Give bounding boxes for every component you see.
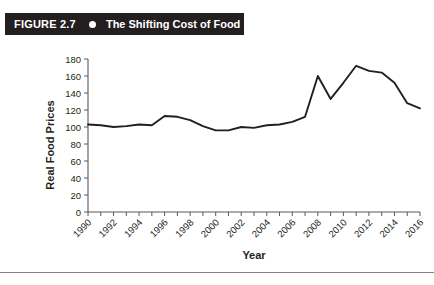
y-tick-label: 80 <box>70 139 81 150</box>
chart-canvas: Real Food Prices 02040608010012014016018… <box>0 40 434 265</box>
x-axis-ticks: 1990199219941996199820002002200420062008… <box>71 212 426 239</box>
y-tick-label: 60 <box>70 156 81 167</box>
x-tick-label: 2002 <box>224 217 247 240</box>
figure-number: FIGURE 2.7 <box>14 18 76 30</box>
figure-title: The Shifting Cost of Food <box>106 18 240 30</box>
figure-title-banner: FIGURE 2.7 The Shifting Cost of Food <box>5 13 244 35</box>
x-tick-label: 2012 <box>352 217 375 240</box>
x-axis-title: Year <box>242 249 266 261</box>
y-tick-label: 40 <box>70 173 81 184</box>
x-tick-label: 2004 <box>249 217 272 240</box>
x-tick-label: 2008 <box>301 217 324 240</box>
x-tick-label: 1998 <box>173 217 196 240</box>
y-tick-label: 140 <box>65 88 81 99</box>
y-axis-title: Real Food Prices <box>44 100 56 189</box>
data-series-line <box>88 66 420 131</box>
bullet-dot-icon <box>89 21 96 28</box>
x-tick-label: 2000 <box>198 217 221 240</box>
y-tick-label: 160 <box>65 71 81 82</box>
x-tick-label: 2014 <box>377 217 400 240</box>
bottom-divider <box>0 272 434 273</box>
y-tick-label: 0 <box>76 207 81 218</box>
y-tick-label: 180 <box>65 54 81 65</box>
x-tick-label: 1990 <box>71 217 94 240</box>
x-tick-label: 2006 <box>275 217 298 240</box>
x-tick-label: 1996 <box>147 217 170 240</box>
y-axis-ticks: 020406080100120140160180 <box>65 54 88 218</box>
x-tick-label: 2016 <box>403 217 426 240</box>
x-tick-label: 2010 <box>326 217 349 240</box>
y-tick-label: 20 <box>70 190 81 201</box>
y-tick-label: 100 <box>65 122 81 133</box>
x-tick-label: 1994 <box>122 217 145 240</box>
line-chart-figure: Real Food Prices 02040608010012014016018… <box>0 40 434 265</box>
x-tick-label: 1992 <box>96 217 119 240</box>
y-tick-label: 120 <box>65 105 81 116</box>
